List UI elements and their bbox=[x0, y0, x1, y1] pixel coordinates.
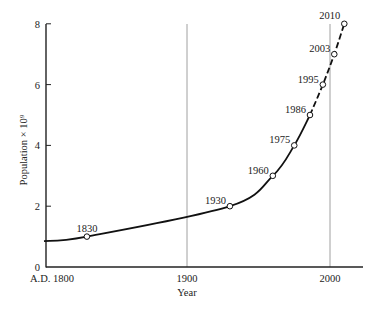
data-point-2010 bbox=[342, 21, 348, 27]
data-point-1830 bbox=[84, 234, 90, 240]
y-axis-title: Population × 10⁹ bbox=[18, 114, 29, 185]
x-tick-label-2000: 2000 bbox=[320, 273, 341, 284]
data-label-2003: 2003 bbox=[309, 43, 330, 54]
data-point-1975 bbox=[291, 143, 297, 149]
data-label-1995: 1995 bbox=[298, 74, 319, 85]
y-tick-label-8: 8 bbox=[35, 19, 40, 30]
x-tick-label-1900: 1900 bbox=[177, 273, 198, 284]
data-point-1995 bbox=[320, 82, 326, 88]
data-point-2003 bbox=[331, 51, 337, 57]
population-chart: 02468A.D. 180019002000YearPopulation × 1… bbox=[0, 0, 384, 316]
data-label-1986: 1986 bbox=[285, 104, 306, 115]
data-point-1986 bbox=[307, 112, 313, 118]
data-label-1930: 1930 bbox=[205, 195, 226, 206]
x-axis-title: Year bbox=[177, 287, 197, 298]
y-tick-label-6: 6 bbox=[35, 80, 40, 91]
y-tick-label-4: 4 bbox=[35, 140, 41, 151]
data-label-2010: 2010 bbox=[319, 10, 340, 21]
x-tick-label-1800: A.D. 1800 bbox=[30, 273, 74, 284]
data-point-1960 bbox=[270, 173, 276, 179]
data-label-1975: 1975 bbox=[269, 134, 290, 145]
y-tick-label-0: 0 bbox=[35, 262, 40, 273]
population-curve-dashed bbox=[310, 24, 344, 115]
data-label-1830: 1830 bbox=[76, 223, 97, 234]
data-label-1960: 1960 bbox=[248, 165, 269, 176]
data-point-1930 bbox=[227, 203, 233, 209]
y-tick-label-2: 2 bbox=[35, 201, 40, 212]
